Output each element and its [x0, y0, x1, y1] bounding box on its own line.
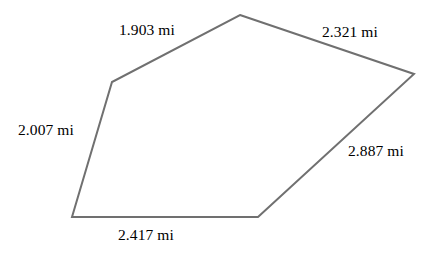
edge-label-bottom: 2.417 mi — [118, 227, 174, 243]
edge-label-left: 2.007 mi — [18, 122, 74, 138]
polygon-figure: 1.903 mi 2.321 mi 2.007 mi 2.887 mi 2.41… — [0, 0, 438, 258]
polygon-outline — [72, 15, 414, 217]
edge-label-right: 2.887 mi — [348, 143, 404, 159]
edge-label-top-right: 2.321 mi — [322, 24, 378, 40]
edge-label-top-left: 1.903 mi — [119, 22, 175, 38]
